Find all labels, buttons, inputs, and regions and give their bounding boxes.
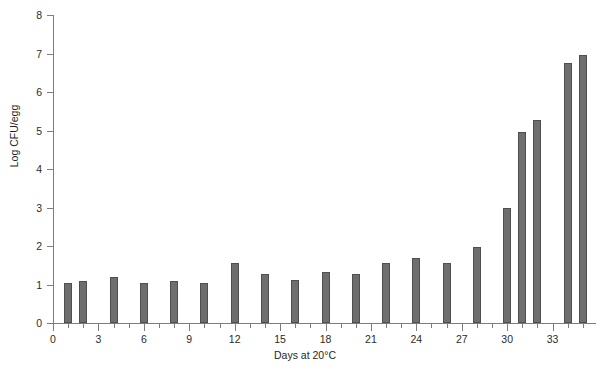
- x-tick: [507, 324, 508, 331]
- bar: [473, 247, 481, 323]
- x-tick-label: 27: [447, 334, 477, 345]
- y-tick-label: 1: [0, 280, 42, 291]
- y-tick-label: 7: [0, 49, 42, 60]
- x-tick-minor: [129, 324, 130, 328]
- x-tick-minor: [447, 324, 448, 328]
- bar: [170, 281, 178, 323]
- x-tick-label: 3: [83, 334, 113, 345]
- x-axis-title: Days at 20°C: [0, 349, 610, 361]
- bar-chart: 012345678 03691215182124273033 Days at 2…: [0, 0, 610, 371]
- x-tick-minor: [401, 324, 402, 328]
- x-tick: [462, 324, 463, 331]
- x-tick: [280, 324, 281, 331]
- bar: [443, 263, 451, 323]
- x-tick-label: 12: [220, 334, 250, 345]
- x-tick-label: 30: [492, 334, 522, 345]
- y-tick-label: 3: [0, 203, 42, 214]
- x-axis-line: [53, 323, 596, 324]
- x-tick-label: 18: [311, 334, 341, 345]
- bar: [110, 277, 118, 323]
- x-tick-minor: [341, 324, 342, 328]
- x-tick-minor: [83, 324, 84, 328]
- x-tick-minor: [250, 324, 251, 328]
- bar: [564, 63, 572, 323]
- x-tick-minor: [492, 324, 493, 328]
- x-tick-minor: [477, 324, 478, 328]
- x-tick: [235, 324, 236, 331]
- bar: [200, 283, 208, 323]
- x-tick-minor: [68, 324, 69, 328]
- x-tick: [189, 324, 190, 331]
- x-tick-minor: [265, 324, 266, 328]
- x-tick-minor: [583, 324, 584, 328]
- y-tick-label: 8: [0, 10, 42, 21]
- y-axis-title: Log CFU/egg: [8, 76, 20, 196]
- x-tick-minor: [431, 324, 432, 328]
- x-tick-minor: [568, 324, 569, 328]
- x-tick-minor: [295, 324, 296, 328]
- x-tick-label: 6: [129, 334, 159, 345]
- bar: [322, 272, 330, 323]
- x-tick: [371, 324, 372, 331]
- x-tick: [98, 324, 99, 331]
- x-tick: [53, 324, 54, 331]
- x-tick-minor: [204, 324, 205, 328]
- x-tick-label: 33: [538, 334, 568, 345]
- bar: [518, 132, 526, 323]
- bar: [231, 263, 239, 323]
- bar: [503, 208, 511, 324]
- x-tick-minor: [220, 324, 221, 328]
- x-tick: [416, 324, 417, 331]
- x-tick-minor: [310, 324, 311, 328]
- x-tick-minor: [356, 324, 357, 328]
- x-tick-label: 0: [38, 334, 68, 345]
- y-tick-label: 2: [0, 241, 42, 252]
- x-tick-minor: [386, 324, 387, 328]
- y-tick-label: 6: [0, 87, 42, 98]
- x-tick-minor: [174, 324, 175, 328]
- x-tick-label: 24: [401, 334, 431, 345]
- x-tick: [553, 324, 554, 331]
- bar: [382, 263, 390, 323]
- x-tick-label: 15: [265, 334, 295, 345]
- x-tick: [326, 324, 327, 331]
- bar: [352, 274, 360, 323]
- x-tick-label: 9: [174, 334, 204, 345]
- bar: [579, 55, 587, 323]
- bar: [412, 258, 420, 323]
- x-tick-minor: [537, 324, 538, 328]
- y-tick-label: 0: [0, 318, 42, 329]
- x-tick: [144, 324, 145, 331]
- bar: [79, 281, 87, 323]
- x-tick-minor: [114, 324, 115, 328]
- bar: [140, 283, 148, 323]
- y-tick-label: 5: [0, 126, 42, 137]
- x-tick-minor: [522, 324, 523, 328]
- bar: [64, 283, 72, 323]
- x-tick-label: 21: [356, 334, 386, 345]
- bar: [291, 280, 299, 323]
- x-tick-minor: [159, 324, 160, 328]
- y-tick-label: 4: [0, 164, 42, 175]
- bar: [261, 274, 269, 323]
- bar: [533, 120, 541, 323]
